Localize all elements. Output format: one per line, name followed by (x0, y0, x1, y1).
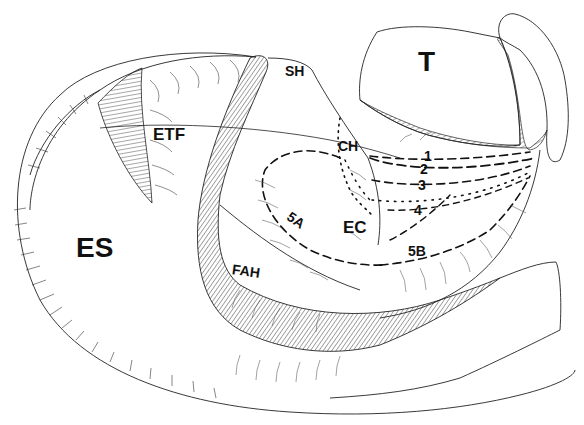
trajectory-1 (370, 152, 530, 159)
label-ec: EC (343, 219, 367, 236)
label-t: T (418, 48, 435, 76)
trajectory-3 (372, 166, 530, 184)
label-3: 3 (418, 178, 426, 192)
etf-hatched-wedge (98, 68, 152, 203)
label-fah: FAH (231, 262, 261, 280)
label-sh: SH (285, 64, 304, 78)
label-4: 4 (414, 203, 422, 217)
trajectory-5a (262, 151, 385, 265)
t-structure (360, 27, 520, 146)
label-5b: 5B (408, 244, 426, 258)
label-2: 2 (420, 162, 428, 176)
trajectory-5b (380, 176, 530, 265)
anatomical-diagram: ES T ETF SH CH EC FAH 5A 5B 1 2 3 4 (0, 0, 584, 425)
label-ch: CH (338, 139, 358, 153)
label-etf: ETF (153, 126, 185, 143)
label-es: ES (76, 234, 113, 262)
ec-boundary (368, 158, 380, 245)
